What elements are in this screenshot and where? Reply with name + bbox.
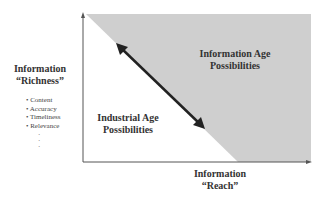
industrial-age-label: Industrial Age Possibilities	[88, 112, 168, 136]
x-axis-title: Information “Reach”	[175, 168, 265, 192]
information-age-region	[86, 14, 311, 162]
y-axis-arrowhead-icon	[81, 12, 85, 18]
list-item: • Timeliness	[26, 113, 61, 122]
list-item: • Content	[26, 96, 61, 105]
list-item: • Accuracy	[26, 105, 61, 114]
y-axis-title: Information “Richness”	[2, 63, 78, 87]
information-age-label: Information Age Possibilities	[180, 48, 290, 72]
list-item: • Relevance	[26, 122, 61, 131]
ellipsis-dot: ·	[38, 144, 61, 150]
richness-attributes-list: • Content • Accuracy • Timeliness • Rele…	[26, 96, 61, 150]
